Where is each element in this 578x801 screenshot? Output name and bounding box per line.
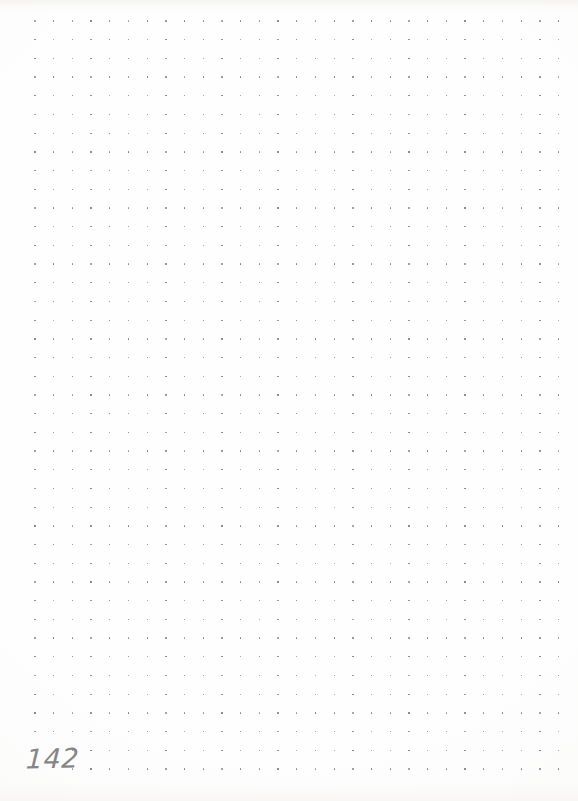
grid-dot [296,133,297,134]
grid-dot [128,544,129,545]
grid-dot [296,525,297,526]
grid-dot [539,282,540,283]
grid-dot [53,20,54,21]
grid-dot [34,376,35,377]
grid-dot [334,768,335,769]
grid-dot [352,189,353,190]
grid-dot [464,712,465,713]
grid-dot [72,413,73,414]
grid-dot [165,301,166,302]
grid-dot [72,226,73,227]
grid-dot [128,39,129,40]
grid-dot [53,656,54,657]
grid-dot [184,357,185,358]
grid-dot [483,301,484,302]
grid-dot [315,151,316,152]
grid-dot [539,151,540,152]
grid-dot [352,263,353,264]
grid-dot [72,731,73,732]
grid-dot [539,656,540,657]
grid-dot [539,114,540,115]
grid-dot [259,394,260,395]
grid-dot [277,432,278,433]
grid-dot [371,357,372,358]
grid-dot [464,114,465,115]
grid-dot [165,170,166,171]
grid-dot [259,600,260,601]
grid-dot [221,731,222,732]
grid-dot [128,357,129,358]
grid-dot [128,768,129,769]
grid-dot [502,245,503,246]
grid-dot [34,469,35,470]
grid-dot [427,20,428,21]
grid-dot [203,301,204,302]
grid-dot [240,394,241,395]
grid-dot [90,675,91,676]
grid-dot [53,170,54,171]
grid-dot [390,76,391,77]
grid-dot [483,469,484,470]
grid-dot [34,675,35,676]
grid-dot [72,488,73,489]
grid-dot [72,114,73,115]
grid-dot [277,694,278,695]
grid-dot [277,282,278,283]
grid-dot [483,694,484,695]
grid-dot [128,170,129,171]
grid-dot [259,133,260,134]
grid-dot [483,507,484,508]
grid-dot [296,450,297,451]
grid-dot [352,469,353,470]
grid-dot [296,170,297,171]
grid-dot [165,712,166,713]
grid-dot [334,544,335,545]
grid-dot [371,768,372,769]
grid-dot [147,600,148,601]
grid-dot [109,750,110,751]
grid-dot [34,189,35,190]
grid-dot [259,301,260,302]
grid-dot [72,469,73,470]
grid-dot [128,58,129,59]
grid-dot [446,320,447,321]
grid-dot [259,563,260,564]
grid-dot [240,413,241,414]
grid-dot [446,432,447,433]
grid-dot [259,207,260,208]
grid-dot [221,432,222,433]
grid-dot [296,114,297,115]
grid-dot [539,263,540,264]
grid-dot [371,432,372,433]
grid-dot [483,282,484,283]
grid-dot [539,376,540,377]
grid-dot [109,525,110,526]
grid-dot [259,469,260,470]
grid-dot [371,170,372,171]
grid-dot [90,376,91,377]
grid-dot [521,226,522,227]
grid-dot [464,675,465,676]
grid-dot [184,338,185,339]
grid-dot [427,469,428,470]
grid-dot [390,357,391,358]
grid-dot [558,245,559,246]
grid-dot [483,189,484,190]
grid-dot [408,731,409,732]
grid-dot [259,320,260,321]
grid-dot [408,95,409,96]
grid-dot [502,563,503,564]
grid-dot [427,581,428,582]
grid-dot [539,432,540,433]
grid-dot [521,20,522,21]
dot-grid [0,0,578,801]
grid-dot [240,226,241,227]
grid-dot [296,39,297,40]
grid-dot [371,544,372,545]
grid-dot [53,207,54,208]
grid-dot [147,619,148,620]
grid-dot [464,338,465,339]
grid-dot [184,114,185,115]
grid-dot [72,357,73,358]
grid-dot [390,507,391,508]
